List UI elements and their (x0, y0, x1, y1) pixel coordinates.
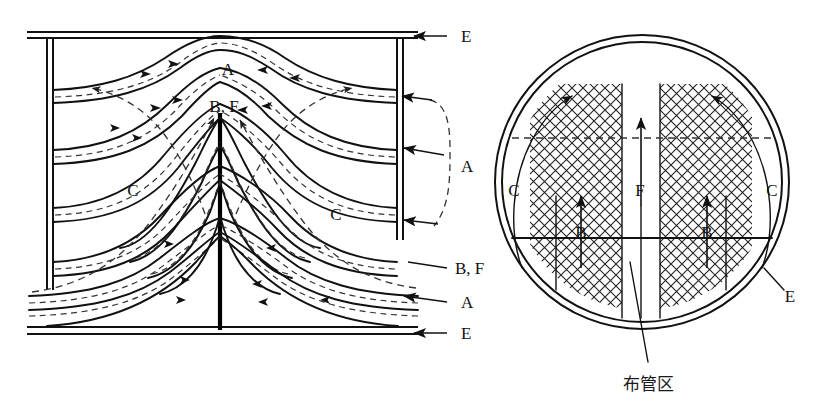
label-C-right: C (330, 205, 341, 224)
callout-E-bottom: E (461, 324, 471, 343)
shell-wall-bottom (27, 327, 418, 334)
tubesheet-right (397, 38, 403, 240)
label-A-top: A (222, 60, 235, 79)
cross-section-view: C F C B B E 布管区 (495, 35, 795, 394)
flow-band-3 (53, 104, 397, 222)
label-C-left-cross: C (508, 181, 519, 200)
flow-band-5 (29, 218, 418, 316)
bottom-flow-envelope (47, 236, 398, 326)
callout-A-right: A (461, 157, 474, 176)
label-BF-center: B, F (209, 97, 238, 116)
callout-A-lower: A (461, 293, 474, 312)
label-C-right-cross: C (766, 181, 777, 200)
label-E-outer: E (785, 287, 795, 306)
label-B-right: B (701, 223, 712, 242)
label-C-left: C (127, 181, 138, 200)
callout-BF-right: B, F (455, 259, 484, 278)
heat-exchanger-flow-diagram: A B, F C C E A B, F A E (0, 0, 815, 417)
tube-field-annotation: 布管区 (623, 374, 674, 394)
label-F-center: F (635, 181, 644, 200)
label-B-left: B (575, 223, 586, 242)
baffle-leakage-loop (402, 96, 450, 226)
callout-E-top: E (461, 27, 471, 46)
callout-leaders (404, 36, 447, 333)
shell-wall-top (27, 32, 418, 38)
bypass-streamline-right (236, 88, 416, 288)
tube-field-leader (630, 262, 648, 362)
flow-band-4 (53, 166, 397, 276)
e-label-leader (764, 268, 784, 290)
diagram-canvas: A B, F C C E A B, F A E (0, 0, 815, 417)
longitudinal-section-view: A B, F C C E A B, F A E (27, 27, 484, 343)
flow-band-2 (53, 68, 397, 164)
